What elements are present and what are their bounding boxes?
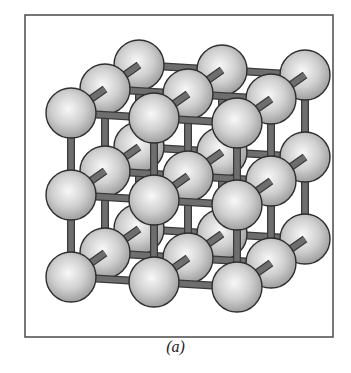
- atom: [129, 257, 179, 307]
- atom: [212, 98, 262, 148]
- atom: [129, 175, 179, 225]
- atom: [212, 180, 262, 230]
- crystal-lattice-figure: (a): [0, 0, 351, 373]
- lattice-diagram: [0, 0, 351, 373]
- figure-caption: (a): [0, 338, 351, 356]
- atom: [46, 88, 96, 138]
- atom: [46, 170, 96, 220]
- atom: [212, 262, 262, 312]
- atom: [129, 93, 179, 143]
- atom: [46, 252, 96, 302]
- atoms: [46, 40, 330, 312]
